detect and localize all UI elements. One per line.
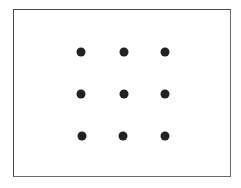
grid-dot bbox=[120, 48, 129, 57]
grid-dot bbox=[78, 132, 87, 141]
grid-dot bbox=[119, 132, 128, 141]
grid-dot bbox=[161, 48, 170, 57]
grid-dot bbox=[77, 48, 86, 57]
grid-dot bbox=[161, 132, 170, 141]
grid-dot bbox=[161, 90, 170, 99]
grid-dot bbox=[120, 90, 129, 99]
grid-dot bbox=[77, 90, 86, 99]
